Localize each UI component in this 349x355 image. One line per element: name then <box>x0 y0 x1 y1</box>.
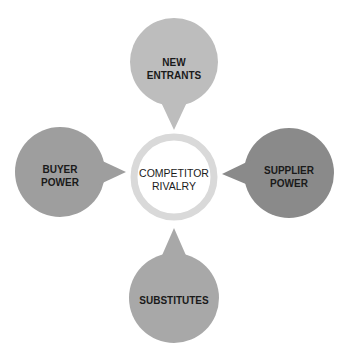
competitor-rivalry-label: COMPETITOR RIVALRY <box>124 167 224 193</box>
buyer-power-label: BUYER POWER <box>10 163 110 189</box>
substitutes-bubble <box>129 228 219 343</box>
substitutes-label: SUBSTITUTES <box>124 294 224 307</box>
supplier-power-label: SUPPLIER POWER <box>239 164 339 190</box>
new-entrants-label: NEW ENTRANTS <box>124 56 224 82</box>
